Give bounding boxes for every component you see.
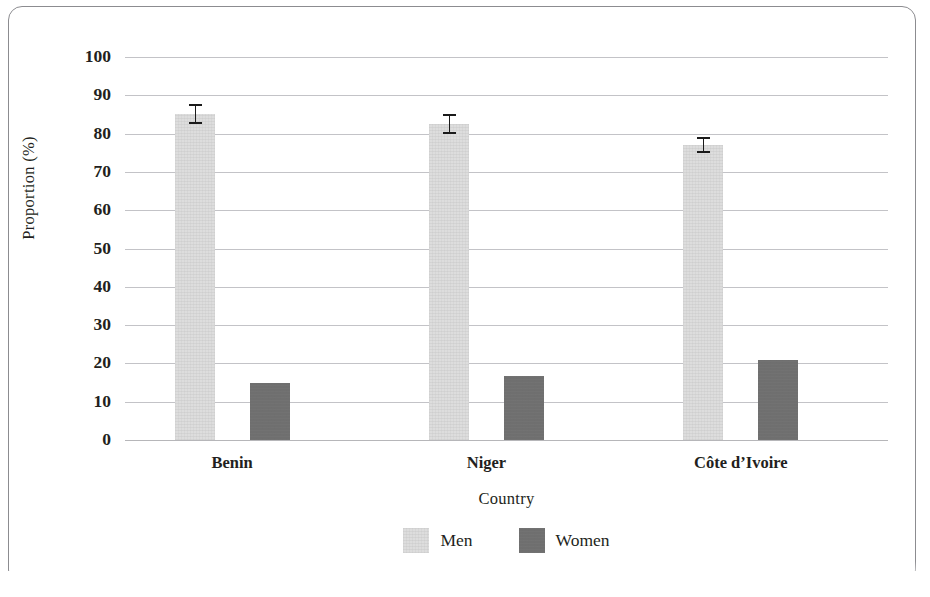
gridline [125,249,888,250]
bar-men-niger [429,124,469,440]
error-bar-cap-top [697,137,710,139]
error-bar [449,114,450,135]
x-axis-tick-label: Côte d’Ivoire [643,453,838,473]
error-bar [703,137,704,152]
gridline [125,95,888,96]
y-axis-tick-label: 40 [71,278,111,296]
bar-men-benin [175,114,215,440]
x-axis-tick-label: Benin [135,453,330,473]
error-bar [195,104,196,124]
y-axis-tick-label: 90 [71,86,111,104]
y-axis-tick-label: 10 [71,393,111,411]
y-axis-tick-label: 100 [71,48,111,66]
legend-label: Men [440,530,472,551]
chart-page: 0102030405060708090100 Proportion (%) Be… [0,0,930,597]
legend-item-men: Men [403,528,472,553]
y-axis-tick-label: 50 [71,240,111,258]
gridline [125,210,888,211]
y-axis-tick-label: 20 [71,354,111,372]
y-axis-tick-label: 70 [71,163,111,181]
y-axis-tick-label: 80 [71,125,111,143]
y-axis-tick-label: 60 [71,201,111,219]
legend-swatch-women [519,528,545,553]
chart-legend: MenWomen [125,528,888,553]
y-axis-tick-labels: 0102030405060708090100 [63,57,111,440]
error-bar-cap-bottom [443,132,456,134]
y-axis-tick-label: 30 [71,316,111,334]
gridline [125,134,888,135]
y-axis-tick-label: 0 [71,431,111,449]
legend-label: Women [556,530,610,551]
error-bar-cap-top [189,104,202,106]
error-bar-cap-top [443,114,456,116]
x-axis-tick-label: Niger [389,453,584,473]
gridline [125,57,888,58]
bar-women-benin [250,383,290,440]
gridline [125,325,888,326]
gridline [125,172,888,173]
error-bar-cap-bottom [697,151,710,153]
gridline [125,287,888,288]
bar-men-c-te-d-ivoire [683,145,723,440]
bar-women-c-te-d-ivoire [758,360,798,440]
legend-swatch-men [403,528,429,553]
y-axis-title: Proportion (%) [19,98,39,278]
legend-item-women: Women [519,528,610,553]
gridline [125,440,888,441]
plot-area: BeninNigerCôte d’Ivoire Country [125,57,888,440]
bar-women-niger [504,376,544,440]
x-axis-title: Country [125,489,888,509]
error-bar-cap-bottom [189,122,202,124]
